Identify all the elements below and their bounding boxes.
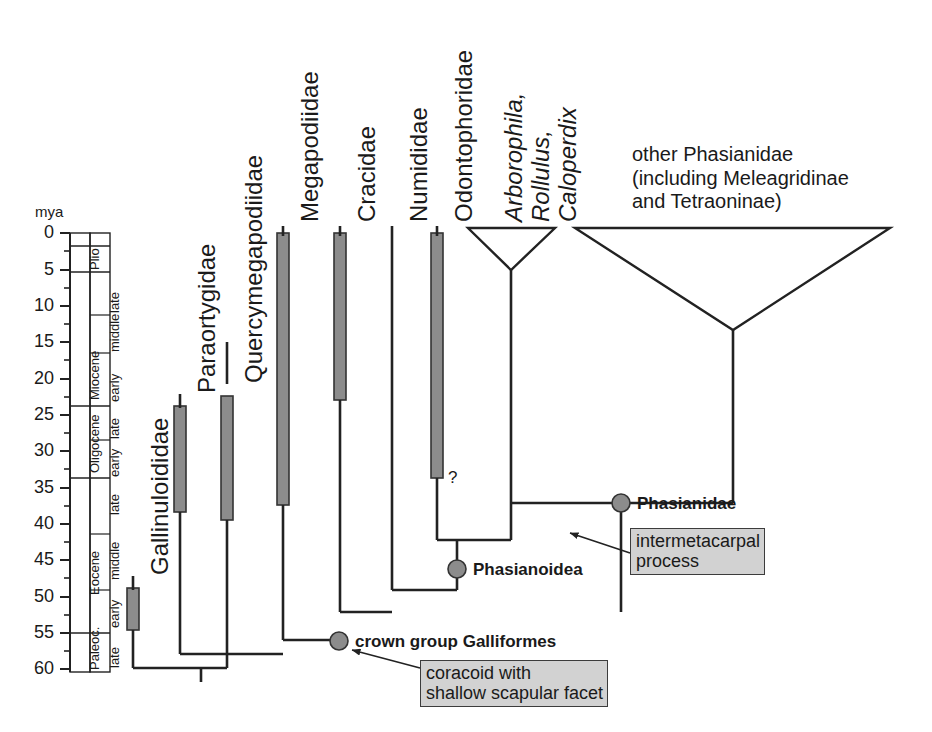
tick-label: 35: [18, 477, 54, 498]
tick-label: 50: [18, 586, 54, 607]
subepoch-label: middle: [107, 314, 122, 352]
node-dot-phasianidae: [612, 494, 630, 512]
tick-label: 0: [18, 222, 54, 243]
epoch-label-oligocene: Oligocene: [87, 414, 102, 473]
axis-unit-label: mya: [35, 203, 63, 220]
taxon-label-odontophoridae: Odontophoridae: [450, 50, 478, 222]
taxon-label-arborophila: Arborophila,: [500, 93, 528, 222]
uncertainty-marker-odontophoridae: ?: [448, 468, 457, 488]
tick-label: 60: [18, 658, 54, 679]
epoch-label-eocene: Eocene: [87, 551, 102, 595]
taxon-label-paraortygidae: Paraortygidae: [193, 244, 221, 393]
tick-label: 45: [18, 549, 54, 570]
node-dot-crown-galliformes: [330, 632, 348, 650]
clade-label-other-phasianidae: other Phasianidae (including Meleagridin…: [632, 143, 849, 214]
tick-label: 25: [18, 404, 54, 425]
taxon-label-cracidae: Cracidae: [353, 126, 381, 222]
character-box-coracoid: coracoid with shallow scapular facet: [420, 660, 608, 707]
tick-label: 15: [18, 331, 54, 352]
subepoch-label: early: [107, 449, 122, 477]
subepoch-label: late: [107, 418, 122, 439]
tick-label: 30: [18, 440, 54, 461]
taxon-label-numididae: Numididae: [405, 107, 433, 222]
subepoch-label: early: [107, 600, 122, 628]
taxon-label-quercymegapodiidae: Quercymegapodiidae: [240, 155, 268, 383]
epoch-label-plio: Plio: [87, 248, 102, 270]
tick-label: 55: [18, 622, 54, 643]
triangle-other-phasianidae: [575, 228, 890, 330]
subepoch-label: middle: [107, 542, 122, 580]
leader-coracoid: [352, 650, 420, 668]
subepoch-label: late: [107, 647, 122, 668]
node-label-phasianoidea: Phasianoidea: [473, 560, 583, 580]
subepoch-label: late: [107, 292, 122, 313]
taxon-label-megapodiidae: Megapodiidae: [296, 71, 324, 222]
triangle-arborophila-clade: [468, 228, 555, 270]
taxon-label-gallinuloididae: Gallinuloididae: [146, 418, 174, 575]
node-label-crown-galliformes: crown group Galliformes: [355, 632, 556, 652]
subepoch-label: late: [107, 494, 122, 515]
epoch-label-paleocene: Paleoc.: [87, 627, 102, 670]
tick-label: 10: [18, 295, 54, 316]
subepoch-label: early: [107, 374, 122, 402]
character-box-intermetacarpal: intermetacarpal process: [630, 528, 765, 575]
cropped-caption-strip: [0, 0, 932, 10]
taxon-label-rollulus: Rollulus,: [527, 130, 555, 222]
epoch-label-miocene: Miocene: [87, 351, 102, 400]
range-bars: [127, 233, 443, 630]
tick-label: 5: [18, 259, 54, 280]
tick-label: 40: [18, 513, 54, 534]
collapsed-clade-triangles: [468, 228, 890, 330]
node-label-phasianidae: Phasianidae: [637, 494, 736, 514]
node-dot-phasianoidea: [448, 560, 466, 578]
taxon-label-caloperdix: Caloperdix: [554, 107, 582, 222]
time-scale-axis: [60, 233, 110, 672]
tick-label: 20: [18, 368, 54, 389]
